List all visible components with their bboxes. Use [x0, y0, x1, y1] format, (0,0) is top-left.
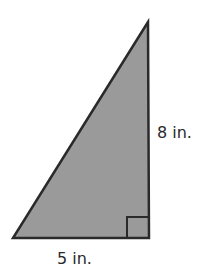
triangle-shape: [13, 22, 149, 238]
right-triangle-diagram: 8 in. 5 in.: [0, 0, 215, 274]
base-label: 5 in.: [57, 249, 92, 268]
height-label: 8 in.: [157, 123, 192, 142]
